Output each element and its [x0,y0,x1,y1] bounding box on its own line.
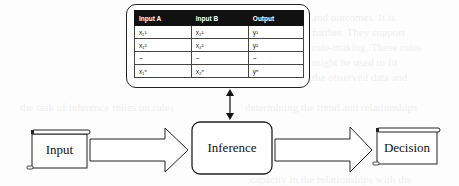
inference-label: Inference [192,140,272,156]
block-arrow-icon [275,127,372,172]
block-arrow-icon [90,128,188,172]
decision-label: Decision [377,140,437,156]
input-label: Input [32,142,87,158]
diagram-shapes [0,0,459,186]
bidirectional-arrow-icon [226,89,234,120]
